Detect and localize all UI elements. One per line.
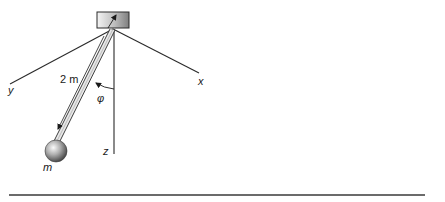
x-axis-label: x	[198, 76, 204, 87]
mass-label: m	[43, 162, 52, 173]
y-axis-label: y	[8, 85, 14, 96]
angle-arc	[96, 83, 114, 89]
pendulum-mass-ball	[45, 140, 67, 162]
diagram-canvas	[0, 0, 445, 202]
horizontal-rule	[9, 194, 425, 196]
z-axis-label: z	[103, 146, 109, 157]
pendulum-diagram: y x z 2 m φ m	[0, 0, 445, 202]
x-axis-line	[113, 29, 199, 73]
angle-phi-label: φ	[97, 93, 104, 104]
pendulum-rod	[54, 29, 115, 143]
rod-length-label: 2 m	[60, 74, 78, 85]
